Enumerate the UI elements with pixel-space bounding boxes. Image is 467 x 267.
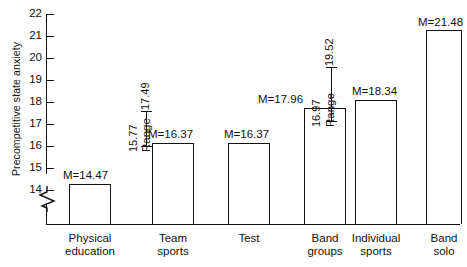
range-bar-2-low-label: 16.97 — [311, 99, 322, 127]
bar-chart: Precompetitive state anxiety 22 21 20 19… — [0, 0, 467, 267]
bar-test — [228, 143, 270, 224]
category-line-2: solo — [404, 245, 467, 258]
y-tick-label-22: 22 — [0, 8, 42, 20]
range-bar-1-label: Range — [141, 118, 153, 152]
range-bar-1-cap-high — [141, 111, 152, 112]
x-axis-baseline — [46, 224, 460, 225]
range-bar-2-label: Range — [325, 93, 337, 127]
bar-individual-sports — [355, 100, 397, 225]
bar-value-label-band-groups: M=17.96 — [258, 94, 303, 106]
y-tick-21 — [46, 36, 54, 37]
y-tick-label-15: 15 — [0, 162, 42, 174]
y-tick-label-14: 14 — [0, 184, 42, 196]
range-bar-2-high-label: 19.52 — [324, 38, 335, 66]
y-tick-20 — [46, 58, 54, 59]
y-tick-19 — [46, 80, 54, 81]
category-line-1: Team — [133, 232, 213, 245]
y-axis-line — [46, 14, 47, 174]
category-line-1: Test — [209, 232, 289, 245]
y-tick-14 — [46, 190, 54, 191]
y-tick-16 — [46, 146, 54, 147]
bar-value-label-test: M=16.37 — [224, 129, 269, 141]
bar-value-label-physical-education: M=14.47 — [63, 170, 108, 182]
y-tick-label-16: 16 — [0, 140, 42, 152]
range-bar-1-low-label: 15.77 — [128, 124, 139, 152]
y-tick-15 — [46, 168, 54, 169]
bar-value-label-individual-sports: M=18.34 — [352, 86, 397, 98]
y-tick-label-19: 19 — [0, 74, 42, 86]
y-tick-label-17: 17 — [0, 118, 42, 130]
bar-value-label-team-sports: M=16.37 — [148, 129, 193, 141]
category-line-1: Physical — [50, 232, 130, 245]
bar-team-sports — [152, 143, 194, 224]
range-bar-1-high-label: 17.49 — [140, 82, 151, 110]
y-tick-label-18: 18 — [0, 96, 42, 108]
y-tick-22 — [46, 14, 54, 15]
y-tick-17 — [46, 124, 54, 125]
category-line-2: education — [50, 245, 130, 258]
y-tick-label-20: 20 — [0, 52, 42, 64]
bar-band-solo — [426, 30, 462, 224]
category-label-team-sports: Team sports — [133, 232, 213, 258]
bar-value-label-band-solo: M=21.48 — [418, 17, 463, 29]
category-label-test: Test — [209, 232, 289, 245]
y-tick-label-21: 21 — [0, 30, 42, 42]
category-label-physical-education: Physical education — [50, 232, 130, 258]
range-bar-2-cap-high — [326, 67, 337, 68]
bar-physical-education — [69, 184, 111, 224]
category-line-2: sports — [133, 245, 213, 258]
y-tick-18 — [46, 102, 54, 103]
category-label-band-solo: Band solo — [404, 232, 467, 258]
category-line-1: Band — [404, 232, 467, 245]
